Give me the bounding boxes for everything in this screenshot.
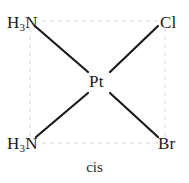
- ligand-symbol-head: H: [7, 134, 19, 153]
- center-atom-label-pt: Pt: [89, 73, 104, 90]
- ligand-label-cl-top-right: Cl: [160, 14, 176, 31]
- bond-pt-nh3-bottom-left: [36, 93, 88, 137]
- ligand-subscript: 3: [19, 21, 25, 33]
- bond-pt-nh3-top-left: [36, 27, 88, 72]
- ligand-label-br-bottom-right: Br: [158, 135, 175, 152]
- ligand-label-nh3-bottom-left: H3N: [7, 135, 38, 152]
- diagram-caption: cis: [0, 160, 189, 175]
- ligand-symbol-tail: N: [25, 134, 37, 153]
- ligand-symbol-head: Cl: [160, 13, 176, 32]
- bond-pt-br: [110, 93, 158, 137]
- ligand-symbol-head: H: [7, 13, 19, 32]
- ligand-label-nh3-top-left: H3N: [7, 14, 38, 31]
- ligand-symbol-tail: N: [25, 13, 37, 32]
- bond-pt-cl: [110, 26, 158, 72]
- ligand-symbol-head: Br: [158, 134, 175, 153]
- ligand-subscript: 3: [19, 142, 25, 154]
- chemical-structure-diagram: H3N Cl Pt H3N Br cis: [0, 0, 189, 183]
